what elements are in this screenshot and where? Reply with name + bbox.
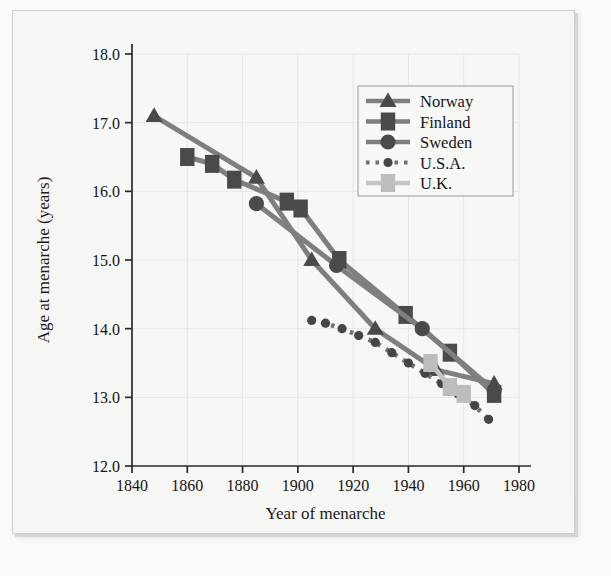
x-tick-label: 1920 — [337, 477, 369, 494]
x-tick-label: 1840 — [116, 477, 148, 494]
data-marker-dot — [354, 331, 363, 340]
data-marker-square — [381, 113, 395, 131]
data-marker-dot — [321, 319, 330, 328]
x-tick-label: 1980 — [503, 477, 535, 494]
page-background: 12.013.014.015.016.017.018.0184018601880… — [0, 0, 611, 576]
menarche-line-chart: 12.013.014.015.016.017.018.0184018601880… — [13, 11, 576, 535]
data-marker-dot — [307, 316, 316, 325]
data-marker-dot — [404, 358, 413, 367]
legend-label: Finland — [420, 113, 471, 132]
data-marker-circle — [380, 134, 395, 149]
x-tick-label: 1900 — [282, 477, 314, 494]
y-tick-label: 16.0 — [92, 183, 120, 200]
legend-label: U.S.A. — [420, 154, 465, 173]
legend: NorwayFinlandSwedenU.S.A.U.K. — [358, 86, 513, 196]
data-marker-circle — [249, 196, 264, 211]
data-marker-square — [205, 155, 219, 173]
data-marker-dot — [337, 324, 346, 333]
data-marker-circle — [415, 321, 430, 336]
data-marker-square — [227, 171, 241, 189]
legend-label: Norway — [420, 92, 474, 111]
x-tick-label: 1940 — [392, 477, 424, 494]
x-tick-label: 1860 — [171, 477, 203, 494]
y-axis-title: Age at menarche (years) — [34, 177, 53, 344]
y-tick-label: 15.0 — [92, 252, 120, 269]
x-axis-title: Year of menarche — [265, 504, 385, 523]
x-tick-label: 1960 — [448, 477, 480, 494]
y-tick-label: 14.0 — [92, 321, 120, 338]
x-tick-label: 1880 — [227, 477, 259, 494]
data-marker-dot — [387, 348, 396, 357]
data-marker-square — [293, 200, 307, 218]
data-marker-square — [280, 193, 294, 211]
legend-label: U.K. — [420, 174, 452, 193]
data-marker-square — [443, 378, 457, 396]
data-marker-square — [457, 385, 471, 403]
data-marker-dot — [484, 415, 493, 424]
data-marker-square — [180, 148, 194, 166]
data-marker-dot — [470, 401, 479, 410]
y-tick-label: 17.0 — [92, 115, 120, 132]
data-marker-dot — [371, 338, 380, 347]
data-marker-square — [423, 354, 437, 372]
data-marker-dot — [383, 158, 392, 167]
y-tick-label: 12.0 — [92, 458, 120, 475]
legend-label: Sweden — [420, 133, 472, 152]
data-marker-circle — [487, 383, 502, 398]
figure-frame: 12.013.014.015.016.017.018.0184018601880… — [12, 10, 575, 534]
y-tick-label: 13.0 — [92, 389, 120, 406]
data-marker-square — [381, 174, 395, 192]
y-tick-label: 18.0 — [92, 46, 120, 63]
data-marker-circle — [329, 258, 344, 273]
